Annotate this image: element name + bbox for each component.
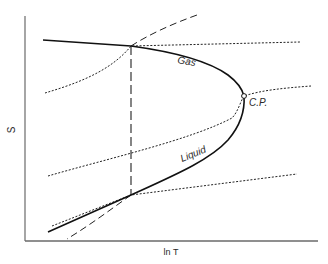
lower-isobar xyxy=(52,174,297,226)
critical-point-label: C.P. xyxy=(249,97,267,108)
subcooled-liquid-branch xyxy=(67,195,131,239)
x-axis-label: ln T xyxy=(164,247,179,257)
critical-isobar xyxy=(48,86,311,176)
liquid-label: Liquid xyxy=(179,143,208,163)
superheated-gas-branch xyxy=(131,15,197,46)
gas-label: Gas xyxy=(177,54,197,68)
phase-diagram: C.P. Gas Liquid S ln T xyxy=(0,0,328,264)
y-axis-label: S xyxy=(6,126,17,133)
gas-branch xyxy=(43,40,244,96)
metastable-extensions xyxy=(67,15,197,239)
axes xyxy=(25,16,318,241)
isobars xyxy=(45,42,311,226)
coexistence-curve xyxy=(43,40,244,232)
critical-point-marker xyxy=(242,94,247,99)
liquid-branch xyxy=(48,96,244,232)
upper-isobar xyxy=(45,42,300,93)
